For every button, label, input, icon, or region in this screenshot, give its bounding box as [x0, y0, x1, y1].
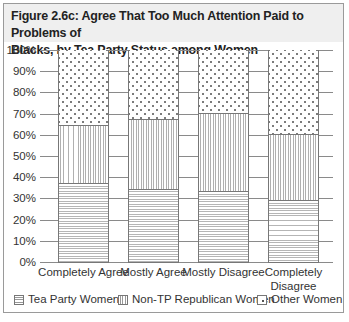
- segment-other: [269, 50, 318, 135]
- y-tick-label: 80%: [2, 86, 36, 98]
- segment-other: [199, 50, 248, 114]
- y-tick-label: 0%: [2, 256, 36, 268]
- segment-tea-party: [269, 201, 318, 262]
- title-bar: Figure 2.6c: Agree That Too Much Attenti…: [4, 4, 343, 42]
- bar-stack: [128, 50, 179, 263]
- segment-non-tp-republican: [269, 135, 318, 201]
- legend-label: Other Women: [271, 293, 342, 305]
- bar-stack: [198, 50, 249, 263]
- segment-tea-party: [199, 192, 248, 262]
- y-tick-label: 100%: [2, 44, 36, 56]
- y-tick-label: 70%: [2, 108, 36, 120]
- legend-label: Tea Party Women: [28, 293, 119, 305]
- vertical-lines-swatch-icon: [118, 295, 128, 305]
- x-tick-label-line-2: Disagree: [244, 279, 344, 293]
- y-tick-label: 30%: [2, 192, 36, 204]
- bar-stack: [268, 50, 319, 263]
- segment-tea-party: [129, 190, 178, 262]
- segment-other: [59, 50, 108, 126]
- segment-non-tp-republican: [129, 120, 178, 190]
- segment-other: [129, 50, 178, 120]
- dots-swatch-icon: [257, 295, 267, 305]
- y-tick-label: 20%: [2, 214, 36, 226]
- y-tick-label: 40%: [2, 171, 36, 183]
- legend-label: Non-TP Republican Women: [132, 293, 275, 305]
- segment-non-tp-republican: [59, 126, 108, 183]
- y-tick-label: 50%: [2, 150, 36, 162]
- y-tick-label: 60%: [2, 129, 36, 141]
- segment-tea-party: [59, 184, 108, 262]
- y-tick-label: 10%: [2, 235, 36, 247]
- y-tick-label: 90%: [2, 65, 36, 77]
- x-tick-label: CompletelyDisagree: [244, 265, 344, 293]
- chart-title-line-1: Figure 2.6c: Agree That Too Much Attenti…: [11, 7, 318, 41]
- horizontal-lines-swatch-icon: [14, 295, 24, 305]
- x-tick-label-line-1: Completely: [244, 265, 344, 279]
- bar-stack: [58, 50, 109, 263]
- segment-non-tp-republican: [199, 114, 248, 192]
